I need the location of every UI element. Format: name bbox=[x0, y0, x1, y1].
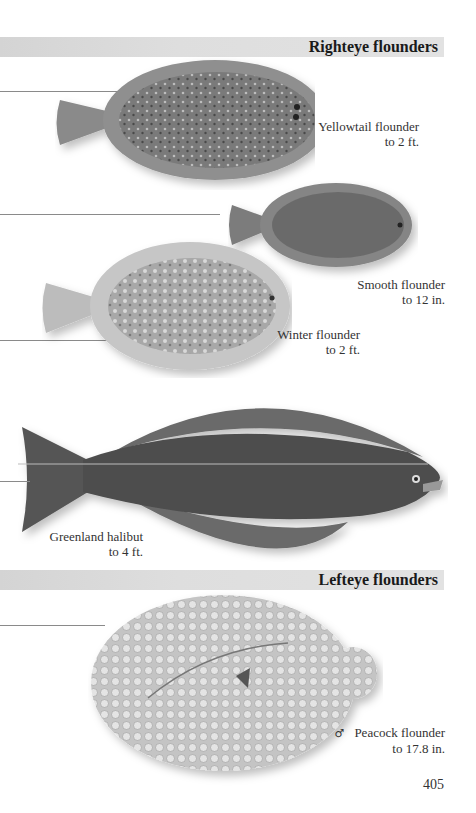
section-title: Lefteye flounders bbox=[318, 570, 438, 590]
species-size: to 4 ft. bbox=[50, 544, 144, 559]
species-name: Peacock flounder bbox=[354, 725, 445, 740]
species-name: Winter flounder bbox=[277, 327, 360, 342]
yellowtail-flounder-illustration bbox=[55, 55, 315, 190]
species-name: Greenland halibut bbox=[50, 529, 144, 544]
species-label-winter: Winter flounder to 2 ft. bbox=[277, 327, 360, 357]
species-label-yellowtail: Yellowtail flounder to 2 ft. bbox=[318, 119, 419, 149]
section-title: Righteye flounders bbox=[309, 37, 438, 57]
male-symbol-icon: ♂ bbox=[335, 726, 345, 741]
species-size: to 2 ft. bbox=[277, 342, 360, 357]
species-name: Smooth flounder bbox=[357, 277, 445, 292]
peacock-flounder-illustration bbox=[88, 588, 383, 788]
section-header-lefteye: Lefteye flounders bbox=[0, 570, 444, 590]
species-label-peacock: ♂Peacock flounder to 17.8 in. bbox=[335, 725, 445, 756]
leader-line bbox=[0, 214, 220, 215]
page-number: 405 bbox=[423, 777, 444, 793]
species-name: Yellowtail flounder bbox=[318, 119, 419, 134]
species-label-smooth: Smooth flounder to 12 in. bbox=[357, 277, 445, 307]
species-size: to 12 in. bbox=[357, 292, 445, 307]
species-size: to 17.8 in. bbox=[335, 741, 445, 756]
species-size: to 2 ft. bbox=[318, 134, 419, 149]
section-header-righteye: Righteye flounders bbox=[0, 37, 444, 57]
winter-flounder-illustration bbox=[42, 238, 292, 378]
leader-line bbox=[0, 481, 30, 482]
species-label-halibut: Greenland halibut to 4 ft. bbox=[50, 529, 144, 559]
